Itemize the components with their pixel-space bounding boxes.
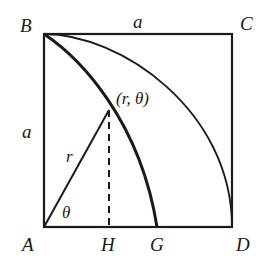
vertex-label-b: B: [20, 16, 32, 35]
quadratrix-diagram: B a C a (r, θ) r θ A H G D: [0, 0, 274, 259]
vertex-label-a: A: [22, 235, 34, 254]
radius-line: [44, 110, 109, 227]
point-label-g: G: [150, 235, 164, 254]
diagram-canvas: [0, 0, 274, 259]
quarter-circle-arc: [44, 34, 232, 227]
radius-label-r: r: [66, 148, 73, 165]
side-label-left-a: a: [22, 122, 32, 141]
angle-label-theta: θ: [62, 204, 70, 221]
vertex-label-d: D: [236, 235, 250, 254]
point-label-r-theta: (r, θ): [116, 90, 149, 107]
point-label-h: H: [101, 235, 115, 254]
side-label-top-a: a: [133, 12, 143, 31]
vertex-label-c: C: [240, 14, 253, 33]
